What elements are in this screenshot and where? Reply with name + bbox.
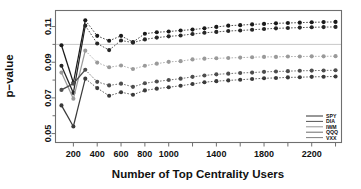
data-point <box>83 77 87 81</box>
data-point <box>226 29 230 33</box>
data-point <box>333 25 337 29</box>
x-tick-label: 2200 <box>302 149 322 159</box>
data-point <box>190 75 194 79</box>
data-point <box>131 85 135 89</box>
data-point <box>226 72 230 76</box>
data-point <box>95 41 99 45</box>
data-point <box>143 88 147 92</box>
data-point <box>310 25 314 29</box>
x-tick-label: 600 <box>114 149 129 159</box>
data-point <box>238 28 242 32</box>
data-point <box>214 79 218 83</box>
x-axis-title: Number of Top Centrality Users <box>112 168 284 180</box>
data-point <box>333 68 337 72</box>
y-axis-title: p−value <box>3 54 15 97</box>
data-point <box>155 30 159 34</box>
data-point <box>250 28 254 32</box>
data-point <box>71 82 75 86</box>
data-point <box>179 28 183 32</box>
data-point <box>214 25 218 29</box>
data-point <box>167 78 171 82</box>
data-point <box>119 63 123 67</box>
data-point <box>155 62 159 66</box>
data-point <box>71 124 75 128</box>
data-point <box>143 64 147 68</box>
data-point <box>95 34 99 38</box>
data-point <box>286 75 290 79</box>
data-point <box>274 69 278 73</box>
data-point <box>179 59 183 63</box>
data-point <box>322 25 326 29</box>
data-point <box>310 20 314 24</box>
data-point <box>179 77 183 81</box>
y-tick-label: 0.11 <box>43 18 53 35</box>
data-point <box>226 78 230 82</box>
data-point <box>333 54 337 58</box>
data-point <box>167 29 171 33</box>
data-point <box>202 31 206 35</box>
data-point <box>119 34 123 38</box>
data-point <box>143 37 147 41</box>
data-point <box>250 22 254 26</box>
data-point <box>71 97 75 101</box>
data-point <box>214 30 218 34</box>
data-point <box>214 56 218 60</box>
data-point <box>107 65 111 69</box>
data-point <box>107 94 111 98</box>
data-point <box>226 24 230 28</box>
y-tick-label: 0.05 <box>43 125 53 143</box>
data-point <box>179 84 183 88</box>
x-tick-label: 400 <box>90 149 105 159</box>
data-point <box>298 54 302 58</box>
data-point <box>286 69 290 73</box>
data-point <box>238 56 242 60</box>
data-point <box>250 55 254 59</box>
x-tick-label: 1800 <box>254 149 274 159</box>
data-point <box>143 81 147 85</box>
data-point <box>107 48 111 52</box>
data-point <box>155 87 159 91</box>
data-point <box>190 57 194 61</box>
data-point <box>262 22 266 26</box>
data-point <box>202 73 206 77</box>
x-tick-label: 1400 <box>206 149 226 159</box>
data-point <box>274 26 278 30</box>
data-point <box>274 76 278 80</box>
data-point <box>238 71 242 75</box>
data-point <box>322 20 326 24</box>
data-point <box>131 93 135 97</box>
data-point <box>119 82 123 86</box>
data-point <box>95 86 99 90</box>
data-point <box>59 43 63 47</box>
data-point <box>226 56 230 60</box>
data-point <box>238 23 242 27</box>
data-point <box>310 69 314 73</box>
line-chart: 2004006008001000140018002200 0.050.070.0… <box>0 0 361 189</box>
y-tick-label: 0.07 <box>43 89 53 107</box>
data-point <box>131 67 135 71</box>
data-point <box>83 24 87 28</box>
data-point <box>274 55 278 59</box>
data-point <box>262 27 266 31</box>
data-point <box>83 68 87 72</box>
data-point <box>322 54 326 58</box>
data-point <box>59 71 63 75</box>
data-point <box>286 54 290 58</box>
data-point <box>250 71 254 75</box>
data-point <box>202 26 206 30</box>
data-point <box>59 103 63 107</box>
data-point <box>286 21 290 25</box>
data-point <box>298 75 302 79</box>
data-point <box>333 74 337 78</box>
data-point <box>179 33 183 37</box>
data-point <box>238 78 242 82</box>
data-point <box>250 77 254 81</box>
legend-label-vxx: VXX <box>326 135 337 141</box>
data-point <box>310 75 314 79</box>
data-point <box>322 75 326 79</box>
data-point <box>286 26 290 30</box>
data-point <box>202 80 206 84</box>
data-point <box>274 21 278 25</box>
data-point <box>190 28 194 32</box>
data-point <box>83 49 87 53</box>
